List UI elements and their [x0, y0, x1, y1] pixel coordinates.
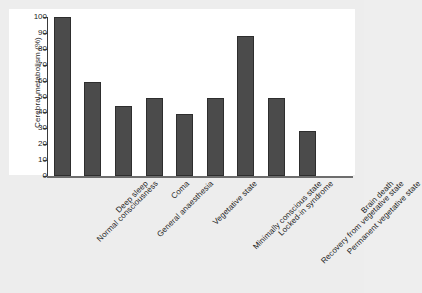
x-axis-label: Vegetative state	[211, 179, 259, 227]
x-axis-label: Normal consciousness	[95, 179, 160, 244]
bar	[237, 36, 254, 176]
bar	[207, 98, 224, 176]
bar	[268, 98, 285, 176]
bar	[115, 106, 132, 176]
x-axis-label: Deep sleep	[114, 179, 150, 215]
x-axis-label: Permanent vegetative state	[345, 179, 422, 256]
x-axis-label: Brain death	[359, 179, 395, 215]
bar	[299, 131, 316, 176]
x-axis-label: Coma	[169, 179, 191, 201]
x-axis-label: General anaesthesia	[155, 179, 215, 239]
bar	[146, 98, 163, 176]
bar	[84, 82, 101, 176]
bar	[54, 17, 71, 176]
bar	[176, 114, 193, 176]
x-axis-label: Recovery from vegetative state	[319, 179, 405, 265]
bars	[47, 17, 353, 176]
y-tick-mark	[43, 176, 47, 177]
x-axis-label: Minimally conscious state	[252, 179, 324, 251]
x-axis-label: Locked-in syndrome	[277, 179, 336, 238]
x-axis-line	[47, 176, 353, 178]
